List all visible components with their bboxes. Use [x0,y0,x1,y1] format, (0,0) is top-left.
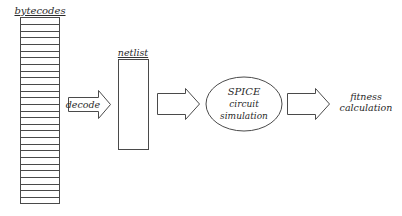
decode-arrow: decode [66,91,111,119]
spice-line2: circuit [229,99,259,109]
pipeline-diagram: bytecodes decode netlist SPICE circuit s… [0,0,402,216]
bytecodes-box [21,18,60,204]
spice-line3: simulation [220,111,268,121]
netlist-box [119,60,149,150]
fitness-line1: fitness [349,91,382,102]
fitness-calculation-node: fitness calculation [340,91,393,113]
fitness-line2: calculation [340,102,393,113]
spice-title: SPICE [228,86,261,97]
arrow-to-fitness [288,89,330,120]
spice-simulation-node: SPICE circuit simulation [206,77,282,131]
bytecodes-label: bytecodes [14,5,65,16]
netlist-block: netlist [118,47,149,150]
netlist-label: netlist [118,47,149,58]
decode-label: decode [66,99,101,110]
bytecodes-stack: bytecodes [14,5,65,204]
arrow-to-spice [158,89,200,120]
